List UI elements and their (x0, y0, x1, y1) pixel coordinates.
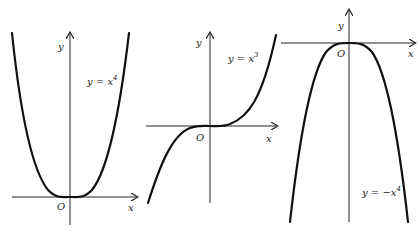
x-axis-label: x (408, 48, 414, 59)
origin-label: O (196, 132, 204, 143)
panel-neg-quartic: y O x y = −x4 (281, 10, 415, 222)
x-axis-label: x (266, 133, 272, 144)
y-axis-label: y (57, 41, 64, 52)
equation-label: y = x3 (227, 51, 259, 64)
origin-label: O (337, 48, 345, 59)
y-axis-label: y (195, 37, 202, 48)
y-axis-label: y (337, 20, 344, 31)
origin-label: O (57, 201, 65, 212)
curve-x3 (148, 35, 276, 203)
x-axis-label: x (128, 202, 134, 213)
function-graphs-diagram: y O x y = x4 y O x y = x3 y O x y = −x4 (0, 0, 420, 232)
equation-label: y = x4 (86, 74, 118, 87)
panel-cubic: y O x y = x3 (146, 33, 277, 203)
equation-label: y = −x4 (361, 185, 401, 198)
panel-quartic: y O x y = x4 (12, 33, 137, 225)
